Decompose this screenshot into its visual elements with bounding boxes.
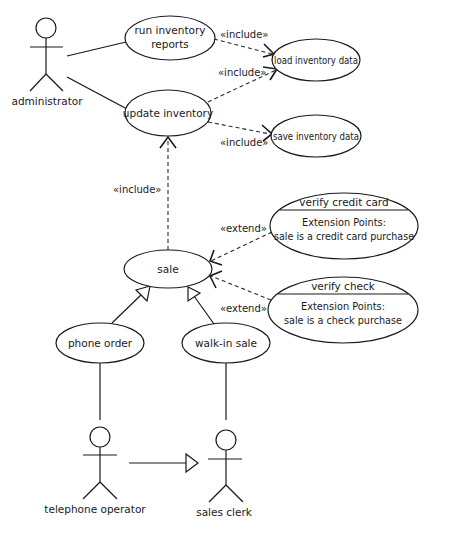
include-label: «include» (220, 137, 268, 148)
extension-points-title: Extension Points: (301, 301, 385, 312)
actor-telephone-operator[interactable]: telephone operator (44, 427, 146, 515)
use-case-phone-order[interactable]: phone order (56, 323, 144, 363)
use-case-load-inventory-data[interactable]: load inventory data (272, 39, 360, 81)
generalization-telephone-operator-to-sales-clerk (129, 454, 198, 472)
stick-figure-icon (83, 427, 117, 499)
use-case-update-inventory[interactable]: update inventory (123, 90, 213, 136)
extend-credit-card-to-sale: «extend» (210, 223, 272, 265)
actor-label: administrator (11, 95, 83, 107)
association-admin-run-reports (67, 42, 126, 56)
extend-label: «extend» (220, 223, 267, 234)
use-case-verify-check[interactable]: verify check Extension Points: sale is a… (268, 277, 418, 343)
generalization-phone-order-to-sale (112, 286, 150, 323)
use-case-diagram: administrator «include» «include» «inclu… (0, 0, 449, 536)
use-case-label: load inventory data (274, 54, 358, 66)
use-case-run-inventory-reports[interactable]: run inventory reports (125, 16, 215, 60)
stick-figure-icon (30, 18, 63, 91)
extension-point: sale is a check purchase (284, 315, 402, 326)
use-case-verify-credit-card[interactable]: verify credit card Extension Points: sal… (270, 193, 418, 259)
use-case-sale[interactable]: sale (124, 250, 212, 288)
actor-label: telephone operator (44, 503, 146, 515)
include-update-to-load: «include» (208, 67, 277, 102)
actor-administrator[interactable]: administrator (11, 18, 83, 107)
use-case-save-inventory-data[interactable]: save inventory data (271, 115, 361, 157)
use-case-label: run inventory (135, 24, 206, 36)
extend-label: «extend» (220, 303, 267, 314)
extension-points-title: Extension Points: (302, 217, 386, 228)
use-case-label: walk-in sale (195, 337, 257, 349)
use-case-label: update inventory (123, 107, 213, 119)
use-case-label: save inventory data (273, 130, 359, 142)
use-case-label: phone order (68, 337, 133, 349)
extend-check-to-sale: «extend» (210, 271, 271, 314)
stick-figure-icon (208, 430, 243, 502)
generalization-walk-in-to-sale (188, 287, 214, 324)
use-case-label: reports (151, 38, 189, 50)
include-update-to-save: «include» (208, 122, 272, 148)
include-label: «include» (220, 29, 268, 40)
use-case-label: verify credit card (299, 196, 388, 208)
use-case-label: verify check (311, 280, 376, 292)
use-case-label: sale (157, 263, 178, 275)
use-case-walk-in-sale[interactable]: walk-in sale (182, 323, 270, 363)
actor-label: sales clerk (196, 506, 253, 518)
include-sale-to-update: «include» (113, 137, 176, 250)
actor-sales-clerk[interactable]: sales clerk (196, 430, 253, 518)
extension-point: sale is a credit card purchase (274, 231, 414, 242)
include-run-reports-to-load: «include» (214, 29, 274, 57)
include-label: «include» (113, 184, 161, 195)
include-label: «include» (218, 67, 266, 78)
